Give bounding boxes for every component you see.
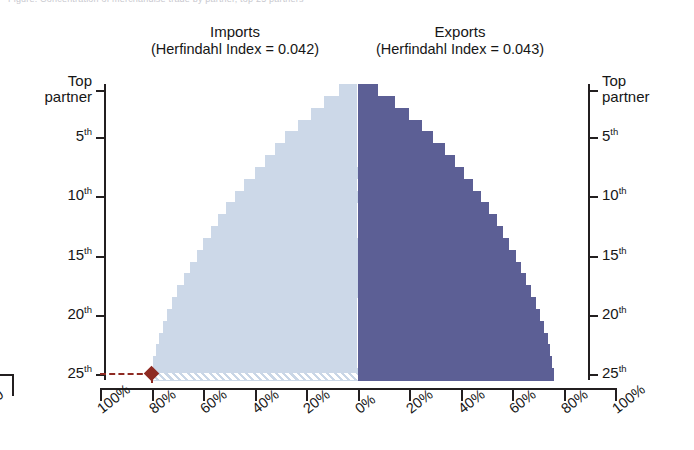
pyramid-row	[100, 321, 615, 334]
bar-exports	[358, 214, 497, 227]
neighbor-chart-clip: 80	[0, 370, 32, 416]
bar-exports	[358, 262, 522, 275]
pyramid-row	[100, 344, 615, 357]
bar-exports	[358, 321, 545, 334]
bar-exports	[358, 309, 541, 322]
bar-imports	[298, 120, 357, 133]
pyramid-row	[100, 202, 615, 215]
bar-exports	[358, 368, 554, 381]
bar-imports	[197, 250, 358, 263]
panel-title-exports-name: Exports	[345, 24, 575, 41]
hatched-band-imports	[152, 373, 358, 380]
bar-exports	[358, 84, 379, 97]
y-axis-label-left-20: 20th	[67, 305, 92, 322]
pyramid-row	[100, 297, 615, 310]
bar-exports	[358, 191, 482, 204]
bar-imports	[211, 226, 358, 239]
panel-title-imports: Imports (Herfindahl Index = 0.042)	[120, 24, 350, 57]
bar-exports	[358, 285, 532, 298]
panel-title-imports-name: Imports	[120, 24, 350, 41]
bar-imports	[285, 131, 357, 144]
bar-imports	[275, 143, 357, 156]
panel-title-exports: Exports (Herfindahl Index = 0.043)	[345, 24, 575, 57]
pyramid-row	[100, 285, 615, 298]
bar-exports	[358, 238, 510, 251]
bar-exports	[358, 96, 395, 109]
y-axis-label-left-15: 15th	[67, 246, 92, 263]
bar-exports	[358, 273, 527, 286]
bar-imports	[156, 344, 358, 357]
bar-imports	[190, 262, 357, 275]
pyramid-row	[100, 238, 615, 251]
pyramid-row	[100, 179, 615, 192]
bar-exports	[358, 179, 474, 192]
pyramid-row	[100, 96, 615, 109]
pyramid-row	[100, 191, 615, 204]
y-axis-label-left-10: 10th	[67, 186, 92, 203]
bar-imports	[177, 285, 357, 298]
pyramid-row	[100, 155, 615, 168]
pyramid-row	[100, 143, 615, 156]
pyramid-row	[100, 262, 615, 275]
pyramid-row	[100, 356, 615, 369]
bar-imports	[153, 356, 357, 369]
panel-title-imports-metric: (Herfindahl Index = 0.042)	[120, 41, 350, 57]
pyramid-row	[100, 131, 615, 144]
bar-exports	[358, 333, 548, 346]
pyramid-row	[100, 167, 615, 180]
pyramid-row	[100, 214, 615, 227]
bar-exports	[358, 250, 516, 263]
bar-imports	[226, 202, 357, 215]
y-axis-label-left-5: 5th	[76, 127, 92, 144]
bar-exports	[358, 167, 465, 180]
bar-imports	[172, 297, 357, 310]
bar-exports	[358, 344, 551, 357]
pyramid-row	[100, 333, 615, 346]
pyramid-row	[100, 84, 615, 97]
bar-imports	[163, 321, 357, 334]
bar-imports	[167, 309, 358, 322]
bar-exports	[358, 226, 503, 239]
bar-exports	[358, 131, 434, 144]
bar-exports	[358, 356, 553, 369]
y-axis-label-left-25: 25th	[67, 364, 92, 381]
bar-exports	[358, 143, 446, 156]
bar-imports	[244, 179, 357, 192]
bar-imports	[311, 108, 357, 121]
pyramid-row	[100, 108, 615, 121]
pyramid-row	[100, 309, 615, 322]
bar-exports	[358, 297, 537, 310]
x-axis-label: 100%	[609, 381, 648, 416]
bar-imports	[324, 96, 357, 109]
bar-imports	[235, 191, 357, 204]
pyramid-row	[100, 273, 615, 286]
y-axis-label-left-1: Toppartner	[44, 73, 92, 104]
bar-exports	[358, 108, 410, 121]
bar-imports	[265, 155, 358, 168]
bar-exports	[358, 120, 422, 133]
pyramid-row	[100, 120, 615, 133]
bar-exports	[358, 155, 456, 168]
bar-imports	[339, 84, 357, 97]
pyramid-row	[100, 226, 615, 239]
clipped-header-text: Figure: Concentration of merchandise tra…	[8, 0, 528, 8]
bar-imports	[203, 238, 358, 251]
pyramid-row	[100, 250, 615, 263]
bar-imports	[159, 333, 357, 346]
bar-exports	[358, 202, 489, 215]
bar-imports	[184, 273, 358, 286]
panel-title-exports-metric: (Herfindahl Index = 0.043)	[345, 41, 575, 57]
chart-figure: Figure: Concentration of merchandise tra…	[0, 0, 694, 450]
bar-imports	[218, 214, 357, 227]
plot-area	[100, 84, 615, 380]
bar-imports	[255, 167, 358, 180]
